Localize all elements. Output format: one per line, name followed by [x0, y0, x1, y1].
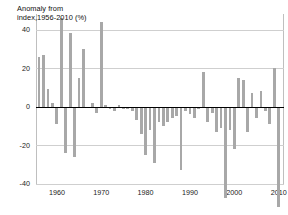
x-tick-label-1960: 1960 — [40, 189, 74, 196]
bar-1964 — [73, 107, 76, 157]
bar-1966 — [82, 49, 85, 107]
gridline-20 — [36, 68, 284, 69]
bar-1984 — [162, 107, 165, 126]
y-tick-label-0: 0 — [2, 103, 30, 110]
zero-baseline — [36, 107, 284, 109]
y-tick-label-20: 20 — [2, 65, 30, 72]
bar-1996 — [215, 107, 218, 132]
bar-2008 — [268, 107, 271, 124]
gridline-40 — [36, 30, 284, 31]
x-tick-label-2010: 2010 — [262, 189, 288, 196]
bar-2003 — [246, 107, 249, 132]
x-tick-label-1980: 1980 — [129, 189, 163, 196]
bar-1985 — [166, 107, 169, 122]
bar-1962 — [64, 107, 67, 153]
bar-1988 — [180, 107, 183, 171]
bar-1998 — [224, 107, 227, 198]
bar-1960 — [55, 107, 58, 124]
bar-1957 — [42, 55, 45, 107]
bar-1979 — [140, 107, 143, 134]
y-tick-label--20: -20 — [2, 142, 30, 149]
bar-2001 — [237, 78, 240, 107]
plot-area — [36, 14, 284, 184]
bar-1965 — [78, 78, 81, 107]
bar-1994 — [206, 107, 209, 122]
bar-2009 — [273, 68, 276, 107]
bar-2005 — [255, 107, 258, 119]
bar-1956 — [38, 57, 41, 107]
bar-1997 — [220, 107, 223, 128]
bar-2010 — [277, 107, 280, 207]
x-tick-label-2000: 2000 — [217, 189, 251, 196]
bar-2002 — [242, 80, 245, 107]
bar-1982 — [153, 107, 156, 163]
bar-1980 — [144, 107, 147, 155]
chart-figure: Anomaly from index,1956-2010 (%) 40200-2… — [0, 0, 288, 215]
bar-2004 — [251, 93, 254, 107]
bar-2000 — [233, 107, 236, 150]
y-tick-label-40: 40 — [2, 26, 30, 33]
bar-1983 — [158, 107, 161, 122]
x-tick-label-1990: 1990 — [173, 189, 207, 196]
bar-1958 — [47, 89, 50, 106]
bar-1963 — [69, 33, 72, 106]
bar-1999 — [229, 107, 232, 130]
y-tick-label--40: -40 — [2, 180, 30, 187]
bar-2006 — [260, 91, 263, 106]
bar-1993 — [202, 72, 205, 107]
gridline--40 — [36, 184, 284, 185]
x-tick-label-1970: 1970 — [84, 189, 118, 196]
bar-1978 — [135, 107, 138, 121]
bar-1986 — [171, 107, 174, 119]
bar-1981 — [149, 107, 152, 130]
bar-1961 — [60, 18, 63, 107]
bar-1991 — [193, 107, 196, 119]
bar-1970 — [100, 22, 103, 107]
